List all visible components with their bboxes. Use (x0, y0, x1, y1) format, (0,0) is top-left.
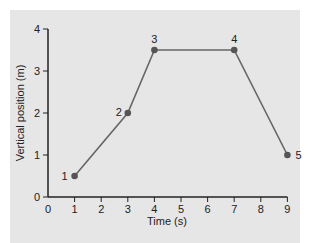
data-point-marker (125, 110, 132, 117)
y-tick-label: 0 (34, 191, 40, 203)
data-point-marker (284, 152, 291, 159)
x-tick-label: 4 (151, 203, 157, 215)
data-point-label: 4 (231, 33, 237, 45)
data-point-label: 3 (151, 33, 157, 45)
data-point-marker (231, 47, 238, 54)
y-tick-label: 1 (34, 149, 40, 161)
data-point-marker (151, 47, 158, 54)
x-tick-label: 7 (231, 203, 237, 215)
line-chart: 012340123456789 12345 Time (s) Vertical … (0, 0, 316, 243)
x-tick-label: 5 (178, 203, 184, 215)
x-tick-label: 2 (98, 203, 104, 215)
y-tick-label: 2 (34, 107, 40, 119)
data-series: 12345 (61, 33, 301, 182)
x-tick-label: 8 (258, 203, 264, 215)
y-tick-label: 4 (34, 23, 40, 35)
data-point-marker (71, 173, 78, 180)
data-point-label: 2 (116, 106, 122, 118)
data-point-label: 1 (61, 170, 67, 182)
y-tick-label: 3 (34, 65, 40, 77)
x-tick-label: 0 (45, 203, 51, 215)
axes: 012340123456789 (34, 23, 291, 215)
x-tick-label: 6 (205, 203, 211, 215)
y-axis-title: Vertical position (m) (14, 65, 26, 162)
x-tick-label: 1 (72, 203, 78, 215)
data-point-label: 5 (295, 149, 301, 161)
series-line (75, 50, 288, 176)
x-tick-label: 9 (284, 203, 290, 215)
x-tick-label: 3 (125, 203, 131, 215)
x-axis-title: Time (s) (147, 215, 187, 227)
